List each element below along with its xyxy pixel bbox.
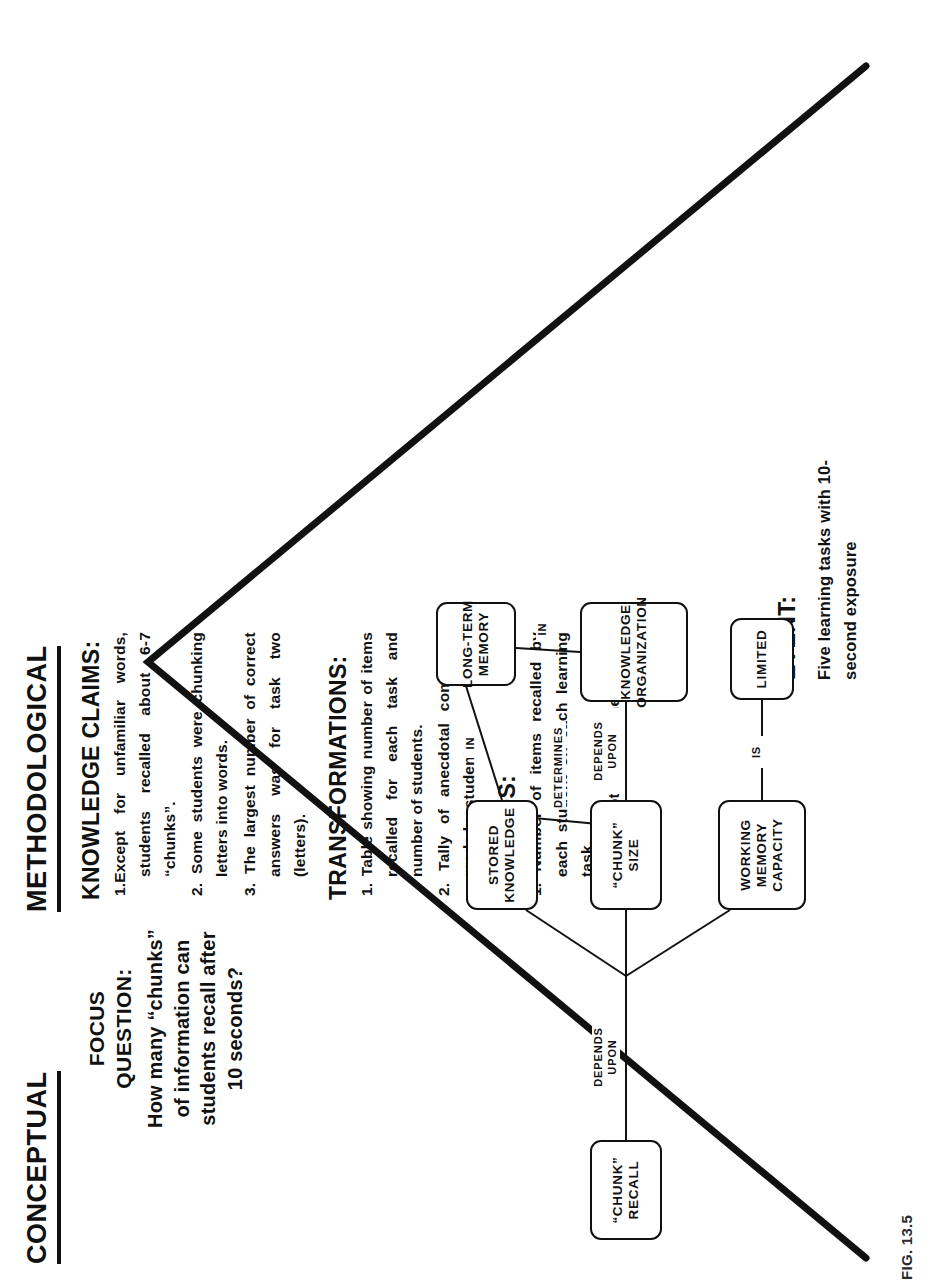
link-label-depends-upon-recall: DEPENDS UPON bbox=[592, 1014, 620, 1100]
knowledge-claim-item: 2. Some students were chunking letters i… bbox=[184, 632, 234, 896]
node-line: LIMITED bbox=[754, 630, 770, 689]
link-line: DEPENDS bbox=[592, 1014, 606, 1100]
knowledge-claim-item: 1.Except for unfamiliar words, students … bbox=[107, 632, 182, 896]
node-stored-knowledge[interactable]: STORED KNOWLEDGE bbox=[466, 800, 538, 910]
transformation-item: 1. Table showing number of items recalle… bbox=[354, 632, 429, 896]
link-label-determines: DETERMINES bbox=[552, 722, 566, 808]
banner-methodological: METHODOLOGICAL bbox=[22, 646, 61, 912]
banner-conceptual: CONCEPTUAL bbox=[22, 1072, 61, 1265]
knowledge-claims-heading: KNOWLEDGE CLAIMS: bbox=[78, 632, 105, 900]
link-line: IN bbox=[464, 728, 478, 758]
connector-junction-stored bbox=[526, 910, 626, 976]
figure-canvas: CONCEPTUAL METHODOLOGICAL FOCUS QUESTION… bbox=[0, 0, 939, 1286]
node-chunk-size[interactable]: “CHUNK” SIZE bbox=[590, 800, 662, 910]
node-working-memory-capacity[interactable]: WORKING MEMORY CAPACITY bbox=[718, 800, 806, 910]
node-line: MEMORY bbox=[476, 612, 492, 676]
node-line: MEMORY bbox=[754, 823, 770, 887]
link-line: DEPENDS bbox=[592, 708, 606, 794]
focus-question-text: How many “chunks” of information can stu… bbox=[142, 921, 249, 1136]
focus-question-block: FOCUS QUESTION: How many “chunks” of inf… bbox=[84, 921, 249, 1136]
node-line: “CHUNK” bbox=[610, 821, 626, 888]
node-line: KNOWLEDGE bbox=[502, 807, 518, 903]
link-label-in-ltm-organization: IN bbox=[536, 616, 550, 642]
link-line: UPON bbox=[606, 1014, 620, 1100]
connector-ltm-organization bbox=[516, 648, 580, 652]
node-limited[interactable]: LIMITED bbox=[730, 618, 794, 700]
link-line: UPON bbox=[606, 708, 620, 794]
connector-junction-wmc bbox=[626, 910, 730, 976]
figure-caption: FIG. 13.5 bbox=[898, 1215, 915, 1280]
knowledge-claim-item: 3. The largest number of correct answers… bbox=[237, 632, 312, 896]
node-line: SIZE bbox=[626, 839, 642, 872]
node-line: RECALL bbox=[626, 1161, 642, 1220]
focus-question-label-line2: QUESTION: bbox=[111, 921, 138, 1136]
transformations-heading: TRANSFORMATIONS: bbox=[325, 632, 352, 900]
link-label-depends-upon-size: DEPENDS UPON bbox=[592, 708, 620, 794]
focus-question-label-line1: FOCUS bbox=[84, 921, 111, 1136]
link-line: IS bbox=[750, 736, 764, 768]
node-line: LONG-TERM bbox=[460, 600, 476, 688]
concept-map: chunk size (arrowhead) --> “CHUNK” RECAL… bbox=[430, 586, 939, 1286]
node-line: KNOWLEDGE bbox=[618, 604, 634, 700]
node-line: “CHUNK” bbox=[610, 1156, 626, 1223]
node-knowledge-organization[interactable]: KNOWLEDGE ORGANIZATION bbox=[580, 602, 688, 702]
link-label-in-stored-ltm: IN bbox=[464, 728, 478, 758]
node-chunk-recall[interactable]: “CHUNK” RECALL bbox=[590, 1140, 662, 1240]
connector-stored-determines-size bbox=[534, 818, 598, 824]
node-line: CAPACITY bbox=[770, 818, 786, 892]
rotated-page-wrapper: CONCEPTUAL METHODOLOGICAL FOCUS QUESTION… bbox=[0, 0, 939, 1286]
node-long-term-memory[interactable]: LONG-TERM MEMORY bbox=[436, 602, 516, 686]
node-line: STORED bbox=[486, 825, 502, 885]
link-label-is: IS bbox=[750, 736, 764, 768]
link-line: IN bbox=[536, 616, 550, 642]
node-line: ORGANIZATION bbox=[634, 596, 650, 708]
link-line: DETERMINES bbox=[552, 722, 566, 808]
node-line: WORKING bbox=[738, 819, 754, 891]
